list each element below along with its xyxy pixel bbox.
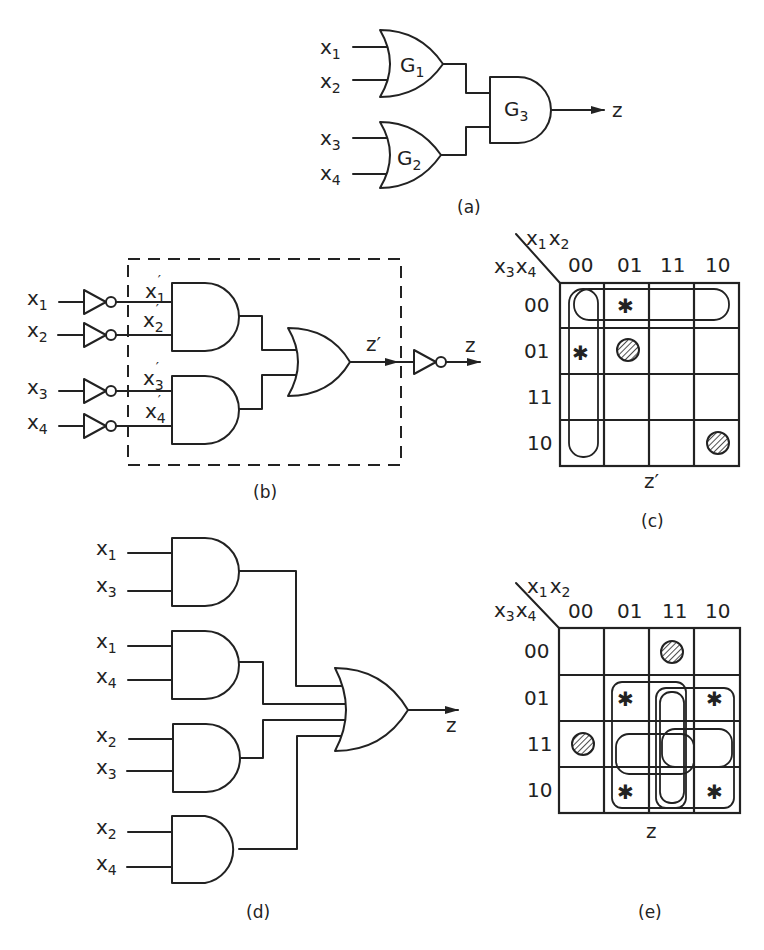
wire-g1-or [239, 571, 346, 686]
input-label: x2 [96, 815, 117, 842]
kmap-function-label: z′ [644, 469, 659, 493]
input-label: x1 [96, 629, 117, 656]
panel-d: x1 x3 x1 x4 x2 x3 x2 x4 z (d) [96, 536, 458, 922]
col-header-10: 10 [705, 599, 730, 623]
input-label-x1: x1 [320, 35, 341, 62]
input-label-x3: x3 [320, 126, 341, 153]
col-header-01: 01 [617, 599, 642, 623]
input-label-x2: x2 [27, 318, 48, 345]
kmap-row-vars: x3x4 [494, 598, 537, 624]
label-x4-prime: x4′ [145, 392, 166, 426]
output-label-z-b: z [465, 333, 476, 357]
logic-circuit-figure: x1 x2 x3 x4 G1 G2 G3 z (a) x1 x2 x3 x4 [0, 0, 764, 950]
or-gate-d [335, 668, 408, 751]
and-gate-b-bottom [172, 376, 239, 444]
input-wires [128, 553, 172, 591]
row-header-00: 00 [524, 639, 549, 663]
row-header-10: 10 [527, 431, 552, 455]
wire-g4-or [239, 736, 346, 849]
caption-c: (c) [641, 511, 664, 531]
kmap-loop-col11 [660, 692, 684, 803]
row-header-01: 01 [524, 686, 549, 710]
col-header-10: 10 [705, 253, 730, 277]
kmap-col-vars: x1x2 [527, 574, 571, 600]
panel-c-kmap: x1x2 x3x4 00 01 11 10 00 01 11 10 ✱ ✱ z′… [494, 226, 739, 531]
and-gate-b-top [172, 283, 239, 351]
row-header-00: 00 [524, 293, 549, 317]
svg-text:x3: x3 [320, 126, 341, 153]
input-label: x2 [96, 723, 117, 750]
output-label-z-a: z [612, 98, 623, 122]
row-header-10: 10 [527, 778, 552, 802]
input-label: x4 [96, 664, 117, 691]
input-wires [127, 739, 173, 771]
label-x2-prime: x2′ [143, 301, 164, 335]
col-header-00: 00 [568, 253, 593, 277]
panel-e-kmap: x1x2 x3x4 00 01 11 10 00 01 11 10 ✱ ✱ ✱ … [494, 574, 740, 922]
input-wires [128, 646, 172, 680]
asterisk-icon: ✱ [706, 687, 723, 711]
col-header-01: 01 [617, 253, 642, 277]
caption-b: (b) [253, 482, 277, 502]
input-label-x4: x4 [320, 161, 341, 188]
asterisk-icon: ✱ [572, 341, 589, 365]
hatched-circle-icon [707, 432, 729, 454]
caption-a: (a) [457, 197, 481, 217]
kmap-function-label: z [646, 819, 657, 843]
input-label: x3 [96, 755, 117, 782]
asterisk-icon: ✱ [617, 780, 634, 804]
svg-text:x1: x1 [320, 35, 341, 62]
input-label-x1: x1 [27, 286, 48, 313]
label-zprime: z′ [366, 332, 381, 356]
col-header-11: 11 [662, 599, 687, 623]
input-label: x1 [96, 536, 117, 563]
col-header-11: 11 [660, 253, 685, 277]
and-gate-x2x4 [172, 816, 233, 883]
or-gate-b [288, 328, 350, 396]
asterisk-icon: ✱ [617, 687, 634, 711]
svg-text:x2: x2 [320, 69, 341, 96]
gate-interconnect-a [441, 64, 490, 155]
panel-b: x1 x2 x3 x4 [27, 259, 480, 502]
row-header-01: 01 [524, 339, 549, 363]
and-gate-x1x4 [172, 631, 239, 699]
row-header-11: 11 [527, 732, 552, 756]
input-label-x3: x3 [27, 375, 48, 402]
col-header-00: 00 [568, 599, 593, 623]
label-x3-prime: x3′ [143, 359, 164, 393]
hatched-circle-icon [661, 641, 683, 663]
hatched-circle-icon [572, 733, 594, 755]
caption-e: (e) [638, 902, 662, 922]
kmap-row-vars: x3x4 [494, 254, 537, 280]
output-label-z-d: z [446, 713, 457, 737]
wire-g3-or [240, 720, 348, 758]
svg-text:x4: x4 [320, 161, 341, 188]
hatched-circle-icon [617, 339, 639, 361]
asterisk-icon: ✱ [617, 294, 634, 318]
input-wires [127, 832, 172, 867]
input-label-x4: x4 [27, 410, 48, 437]
and-gate-x2x3 [173, 724, 240, 792]
input-wires-a [353, 47, 388, 174]
panel-a: x1 x2 x3 x4 G1 G2 G3 z (a) [320, 30, 623, 217]
output-inverter [414, 350, 446, 374]
input-label-x2: x2 [320, 69, 341, 96]
and-gate-x1x3 [172, 538, 239, 606]
kmap-col-vars: x1x2 [526, 226, 570, 252]
input-label: x3 [96, 573, 117, 600]
row-header-11: 11 [527, 385, 552, 409]
wire-g2-or [239, 662, 348, 704]
caption-d: (d) [246, 902, 270, 922]
input-label: x4 [96, 851, 117, 878]
asterisk-icon: ✱ [706, 780, 723, 804]
